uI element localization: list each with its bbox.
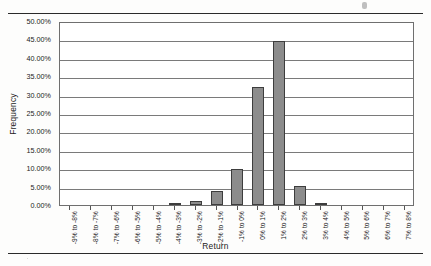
y-axis-tick-label: 40.00%: [27, 55, 51, 62]
y-axis-tick-label: 30.00%: [27, 92, 51, 99]
bar-slot: [81, 23, 102, 205]
bar: [211, 191, 223, 205]
bar-slot: [352, 23, 373, 205]
x-axis-tick-label: -5% to -4%: [156, 211, 163, 244]
x-axis-tick-label: -6% to -5%: [135, 211, 142, 244]
x-axis-tick-label: 5% to 6%: [364, 211, 371, 240]
y-axis-tick-label: 35.00%: [27, 74, 51, 81]
x-axis-tick-mark: [174, 206, 175, 210]
x-axis-tick-label: -8% to -7%: [93, 211, 100, 244]
x-axis-tick-label: 6% to 7%: [385, 211, 392, 240]
bar-slot: [290, 23, 311, 205]
x-axis-tick-mark: [404, 206, 405, 210]
x-axis-tick-mark: [320, 206, 321, 210]
bar-slot: [185, 23, 206, 205]
plot-area: [59, 22, 414, 206]
bar-slot: [164, 23, 185, 205]
x-axis-tick-mark: [132, 206, 133, 210]
y-axis-tick-label: 5.00%: [31, 184, 51, 191]
bar-slot: [248, 23, 269, 205]
bar: [190, 201, 202, 205]
bar-slot: [394, 23, 415, 205]
bar-slot: [227, 23, 248, 205]
y-axis-tick-label: 20.00%: [27, 129, 51, 136]
bar-slot: [373, 23, 394, 205]
y-axis-tick-label: 0.00%: [31, 202, 51, 209]
x-axis-tick-label: -2% to -1%: [218, 211, 225, 244]
y-axis-tick-label: 10.00%: [27, 166, 51, 173]
scanned-page: Frequency 50.00%45.00%40.00%35.00%30.00%…: [0, 0, 431, 266]
bar-slot: [60, 23, 81, 205]
x-axis-title: Return: [0, 241, 431, 251]
y-axis-tick-label: 45.00%: [27, 37, 51, 44]
x-axis-tick-label: 1% to 2%: [281, 211, 288, 240]
bar: [294, 186, 306, 205]
x-axis-tick-label: 3% to 4%: [323, 211, 330, 240]
x-axis-tick-mark: [278, 206, 279, 210]
x-axis-tick-mark: [299, 206, 300, 210]
y-axis-tick-label: 25.00%: [27, 110, 51, 117]
bar: [315, 203, 327, 205]
bar-slot: [331, 23, 352, 205]
x-axis-tick-mark: [237, 206, 238, 210]
bar: [231, 169, 243, 205]
x-axis-tick-mark: [216, 206, 217, 210]
bar-slot: [269, 23, 290, 205]
x-axis-tick-label: -1% to 0%: [239, 211, 246, 242]
y-axis-tick-labels: 50.00%45.00%40.00%35.00%30.00%25.00%20.0…: [0, 22, 55, 206]
bar-slot: [102, 23, 123, 205]
x-axis-tick-label: -7% to -6%: [114, 211, 121, 244]
y-axis-tick-label: 15.00%: [27, 147, 51, 154]
x-axis-tick-mark: [195, 206, 196, 210]
histogram-chart: Frequency 50.00%45.00%40.00%35.00%30.00%…: [0, 0, 431, 266]
x-axis-tick-label: -9% to -8%: [72, 211, 79, 244]
x-axis-tick-mark: [383, 206, 384, 210]
x-axis-tick-label: -4% to -3%: [176, 211, 183, 244]
x-axis-tick-label: 0% to 1%: [260, 211, 267, 240]
x-axis-tick-mark: [257, 206, 258, 210]
x-axis-tick-label: -3% to -2%: [197, 211, 204, 244]
x-axis-tick-label: 7% to 8%: [406, 211, 413, 240]
x-axis-tick-mark: [362, 206, 363, 210]
bar: [252, 87, 264, 205]
bar: [169, 203, 181, 205]
x-axis-tick-mark: [69, 206, 70, 210]
x-axis-tick-mark: [90, 206, 91, 210]
x-axis-tick-mark: [341, 206, 342, 210]
bar-slot: [206, 23, 227, 205]
bar: [273, 41, 285, 205]
y-axis-tick-label: 50.00%: [27, 18, 51, 25]
bar-slot: [144, 23, 165, 205]
x-axis-tick-mark: [153, 206, 154, 210]
bar-slot: [123, 23, 144, 205]
bar-series: [60, 23, 413, 205]
x-axis-tick-mark: [111, 206, 112, 210]
bar-slot: [311, 23, 332, 205]
x-axis-tick-label: 4% to 5%: [344, 211, 351, 240]
x-axis-tick-label: 2% to 3%: [302, 211, 309, 240]
